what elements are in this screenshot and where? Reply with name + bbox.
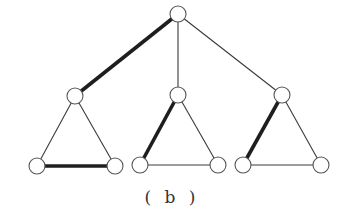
node-M2: [210, 157, 226, 173]
node-R2: [313, 157, 329, 173]
bold-edge-R-R1: [243, 95, 282, 165]
edge-L-L2: [75, 96, 115, 166]
node-L1: [29, 158, 45, 174]
node-L: [67, 88, 83, 104]
bold-edge-root-L: [75, 14, 178, 96]
node-R1: [235, 157, 251, 173]
node-R: [274, 87, 290, 103]
bold-edge-M-M1: [140, 95, 178, 165]
node-root: [170, 6, 186, 22]
edge-M-M2: [178, 95, 218, 165]
node-M1: [132, 157, 148, 173]
edge-R-R2: [282, 95, 321, 165]
figure-caption: ( b ): [0, 187, 344, 207]
edge-root-R: [178, 14, 282, 95]
nodes-group: [29, 6, 329, 174]
node-L2: [107, 158, 123, 174]
node-M: [170, 87, 186, 103]
edge-L-L1: [37, 96, 75, 166]
